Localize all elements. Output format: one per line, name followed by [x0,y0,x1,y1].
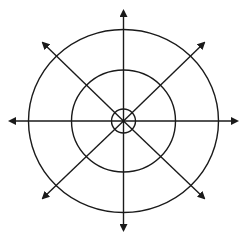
arrow-down-right-icon [124,121,205,198]
radiating-arrows [10,11,237,230]
arrow-up-left-icon [43,43,124,121]
diagram-canvas [0,0,244,235]
radial-diagram [0,0,244,235]
center-point [122,120,125,123]
arrow-down-left-icon [43,121,124,198]
arrow-up-right-icon [124,43,205,121]
